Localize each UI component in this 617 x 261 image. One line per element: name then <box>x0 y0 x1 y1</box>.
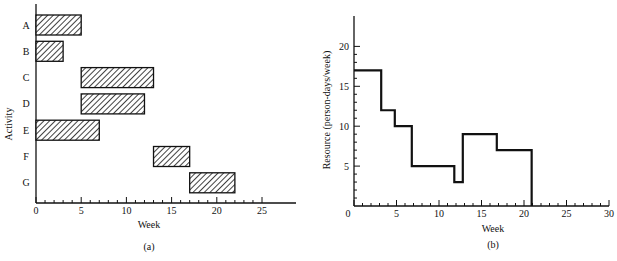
y-tick-label: 10 <box>339 121 349 132</box>
y-tick-label: 15 <box>339 81 349 92</box>
gantt-bar-e <box>36 120 99 140</box>
x-tick-label: 5 <box>79 205 84 216</box>
gantt-chart: 0510152025ABCDEFG <box>22 4 296 216</box>
gantt-bar-a <box>36 15 81 35</box>
caption-b: (b) <box>487 239 499 251</box>
gantt-bar-g <box>190 173 235 193</box>
x-tick-label: 10 <box>121 205 131 216</box>
caption-a: (a) <box>143 241 154 253</box>
x-tick-label: 15 <box>167 205 177 216</box>
activity-label: A <box>22 20 30 31</box>
x-tick-label: 25 <box>562 208 572 219</box>
x-tick-label: 30 <box>604 208 614 219</box>
x-tick-label: 10 <box>434 208 444 219</box>
resource-step-line <box>354 70 532 206</box>
x-tick-label: 20 <box>519 208 529 219</box>
y-tick-label: 20 <box>339 41 349 52</box>
y-tick-label: 5 <box>344 161 349 172</box>
x-axis-label-b: Week <box>482 223 505 234</box>
activity-label: G <box>22 177 29 188</box>
resource-step-chart: 0510152025305101520 <box>339 16 614 219</box>
gantt-bar-d <box>81 94 144 114</box>
x-tick-label: 5 <box>394 208 399 219</box>
gantt-bar-c <box>81 68 153 88</box>
x-tick-label: 20 <box>212 205 222 216</box>
activity-label: C <box>23 72 30 83</box>
x-tick-label: 0 <box>34 205 39 216</box>
y-axis-label-a: Activity <box>3 108 14 141</box>
activity-label: D <box>22 98 29 109</box>
figure: 0510152025ABCDEFG 0510152025305101520 We… <box>0 0 617 261</box>
activity-label: F <box>23 151 29 162</box>
x-axis-label-a: Week <box>138 219 161 230</box>
gantt-bar-f <box>154 147 190 167</box>
activity-label: E <box>23 125 29 136</box>
x-tick-label: 25 <box>257 205 267 216</box>
y-axis-label-b: Resource (person-days/week) <box>321 51 333 170</box>
x-tick-label: 15 <box>477 208 487 219</box>
activity-label: B <box>23 46 30 57</box>
x-tick-label: 0 <box>346 208 351 219</box>
gantt-bar-b <box>36 41 63 61</box>
